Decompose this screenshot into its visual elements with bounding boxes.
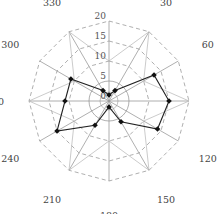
web-line <box>144 101 189 121</box>
radial-tick-10: 10 <box>95 51 107 61</box>
angle-label-120: 120 <box>199 153 217 164</box>
angle-label-270: 270 <box>0 96 4 107</box>
angle-label-60: 60 <box>202 39 214 50</box>
angle-label-150: 150 <box>157 194 175 205</box>
web-line <box>109 141 149 170</box>
polar-grid <box>29 21 189 181</box>
data-point-marker <box>62 98 68 104</box>
angle-label-30: 30 <box>160 0 172 8</box>
web-line <box>69 141 109 170</box>
web-line <box>109 32 149 61</box>
data-point-marker <box>151 72 157 78</box>
data-point-marker <box>155 126 161 132</box>
data-point-marker <box>166 98 172 104</box>
radial-tick-5: 5 <box>100 71 106 81</box>
angle-label-300: 300 <box>1 39 19 50</box>
web-line <box>29 101 74 121</box>
angle-label-330: 330 <box>43 0 61 8</box>
radial-tick-20: 20 <box>95 11 107 21</box>
polar-chart: 05101520 0306090120150180210240270300330 <box>0 0 217 214</box>
spoke-150 <box>109 101 149 170</box>
spoke-210 <box>69 101 109 170</box>
angle-label-210: 210 <box>43 194 61 205</box>
angle-label-180: 180 <box>100 210 118 215</box>
angle-label-240: 240 <box>1 153 19 164</box>
web-line <box>144 81 189 101</box>
data-point-marker <box>68 76 74 82</box>
radial-tick-15: 15 <box>95 31 107 41</box>
